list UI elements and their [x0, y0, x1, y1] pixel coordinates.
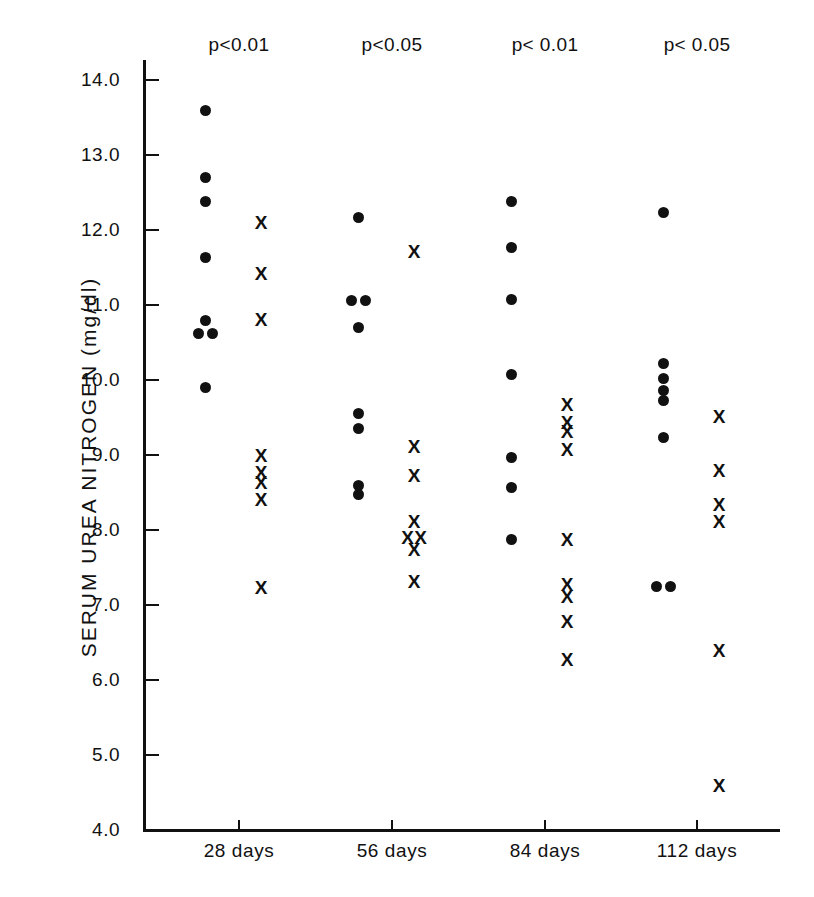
data-point-cross: X — [253, 311, 269, 329]
x-axis-tick-label: 84 days — [475, 840, 615, 862]
data-point-cross: X — [253, 265, 269, 283]
p-value-label: p< 0.05 — [627, 34, 767, 56]
data-point-cross: X — [711, 408, 727, 426]
x-axis-tick — [544, 820, 546, 830]
data-point-cross: X — [253, 214, 269, 232]
data-point-cross: X — [711, 513, 727, 531]
x-axis-tick — [391, 820, 393, 830]
y-axis-tick — [146, 229, 159, 231]
data-point-dot — [506, 242, 517, 253]
y-axis-line — [143, 60, 146, 832]
data-point-cross: X — [559, 651, 575, 669]
y-axis-tick — [146, 754, 159, 756]
x-axis-tick-label: 28 days — [169, 840, 309, 862]
y-axis-tick — [146, 79, 159, 81]
data-point-dot — [200, 196, 211, 207]
data-point-dot — [506, 369, 517, 380]
data-point-dot — [665, 581, 676, 592]
data-point-dot — [506, 534, 517, 545]
data-point-cross: X — [559, 441, 575, 459]
data-point-dot — [658, 207, 669, 218]
y-axis-tick-label: 7.0 — [60, 594, 120, 616]
data-point-cross: X — [406, 438, 422, 456]
y-axis-tick — [146, 304, 159, 306]
data-point-dot — [200, 315, 211, 326]
data-point-dot — [658, 373, 669, 384]
data-point-cross: X — [559, 588, 575, 606]
chart-figure: SERUM UREA NITROGEN (mg/dl) 14.013.012.0… — [0, 0, 814, 897]
data-point-cross: X — [253, 491, 269, 509]
y-axis-tick — [146, 379, 159, 381]
data-point-dot — [506, 452, 517, 463]
y-axis-tick-label: 5.0 — [60, 744, 120, 766]
data-point-dot — [193, 328, 204, 339]
y-axis-tick — [146, 154, 159, 156]
data-point-dot — [506, 294, 517, 305]
y-axis-tick-label: 14.0 — [60, 69, 120, 91]
data-point-dot — [506, 196, 517, 207]
data-point-cross: X — [406, 467, 422, 485]
data-point-cross: X — [711, 777, 727, 795]
data-point-dot — [651, 581, 662, 592]
data-point-dot — [658, 432, 669, 443]
y-axis-tick-label: 12.0 — [60, 219, 120, 241]
data-point-cross: X — [406, 573, 422, 591]
y-axis-tick-label: 9.0 — [60, 444, 120, 466]
x-axis-tick-label: 56 days — [322, 840, 462, 862]
y-axis-tick-label: 8.0 — [60, 519, 120, 541]
y-axis-tick — [146, 679, 159, 681]
data-point-dot — [506, 482, 517, 493]
y-axis-tick-label: 10.0 — [60, 369, 120, 391]
p-value-label: p<0.01 — [169, 34, 309, 56]
y-axis-tick — [146, 529, 159, 531]
data-point-dot — [360, 295, 371, 306]
data-point-dot — [200, 382, 211, 393]
x-axis-tick — [696, 820, 698, 830]
p-value-label: p< 0.01 — [475, 34, 615, 56]
data-point-dot — [658, 395, 669, 406]
x-axis-tick — [238, 820, 240, 830]
data-point-cross: X — [253, 579, 269, 597]
data-point-dot — [200, 105, 211, 116]
data-point-cross: X — [406, 243, 422, 261]
data-point-cross: X — [406, 541, 422, 559]
y-axis-tick-label: 6.0 — [60, 669, 120, 691]
data-point-dot — [200, 252, 211, 263]
p-value-label: p<0.05 — [322, 34, 462, 56]
data-point-dot — [353, 423, 364, 434]
x-axis-tick-label: 112 days — [627, 840, 767, 862]
data-point-cross: X — [711, 642, 727, 660]
data-point-dot — [200, 172, 211, 183]
data-point-cross: X — [559, 613, 575, 631]
data-point-dot — [346, 295, 357, 306]
data-point-dot — [353, 489, 364, 500]
data-point-dot — [207, 328, 218, 339]
y-axis-tick-label: 4.0 — [60, 819, 120, 841]
data-point-cross: X — [711, 462, 727, 480]
y-axis-tick-label: 13.0 — [60, 144, 120, 166]
y-axis-tick-label: 11.0 — [60, 294, 120, 316]
data-point-dot — [353, 212, 364, 223]
data-point-cross: X — [559, 531, 575, 549]
data-point-dot — [658, 358, 669, 369]
data-point-dot — [353, 322, 364, 333]
y-axis-tick — [146, 604, 159, 606]
y-axis-tick — [146, 454, 159, 456]
data-point-dot — [353, 408, 364, 419]
